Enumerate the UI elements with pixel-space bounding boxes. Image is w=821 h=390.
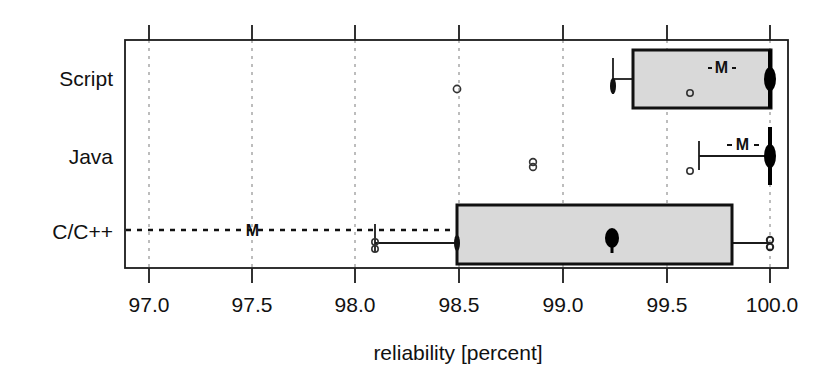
x-axis-title: reliability [percent] (373, 341, 542, 364)
xtick-label-99-0: 99.0 (543, 293, 584, 316)
mean-marker-ccpp: M (246, 222, 260, 239)
xtick-label-98-0: 98.0 (335, 293, 376, 316)
mean-marker-script: M (715, 59, 729, 76)
box-ccpp (457, 205, 732, 264)
q1-marker-ccpp (454, 235, 460, 251)
whisker-blob-script (610, 78, 616, 94)
category-label-ccpp: C/C++ (52, 220, 113, 243)
boxplot-figure: M M (0, 0, 821, 390)
mean-marker-java: M (736, 136, 750, 153)
box-script (633, 50, 771, 108)
xtick-label-97-0: 97.0 (129, 293, 170, 316)
category-label-script: Script (59, 67, 113, 90)
xtick-label-98-5: 98.5 (439, 293, 480, 316)
median-marker-script (764, 67, 776, 91)
chart-canvas: M M (0, 0, 821, 390)
xtick-label-97-5: 97.5 (232, 293, 273, 316)
category-label-java: Java (69, 145, 114, 168)
median-marker-java (764, 144, 776, 168)
xtick-label-100-0: 100.0 (746, 293, 799, 316)
xtick-label-99-5: 99.5 (647, 293, 688, 316)
